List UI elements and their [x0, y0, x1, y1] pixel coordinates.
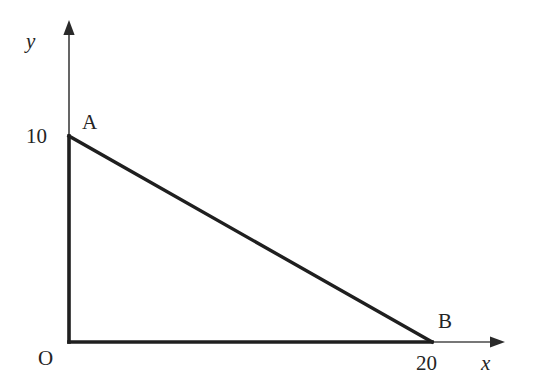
point-label-b: B [438, 311, 452, 332]
y-axis-arrowhead [63, 20, 74, 35]
triangle-side-AB [69, 136, 432, 342]
y-tick-label-10: 10 [26, 126, 47, 147]
x-axis-arrowhead [490, 336, 505, 347]
origin-label: O [38, 348, 53, 369]
y-axis-label: y [26, 31, 35, 52]
point-label-a: A [82, 112, 97, 133]
x-axis-label: x [481, 353, 490, 374]
x-tick-label-20: 20 [416, 353, 437, 374]
diagram-canvas: y x O 10 20 A B [0, 0, 536, 389]
coordinate-plane-svg [0, 0, 536, 389]
